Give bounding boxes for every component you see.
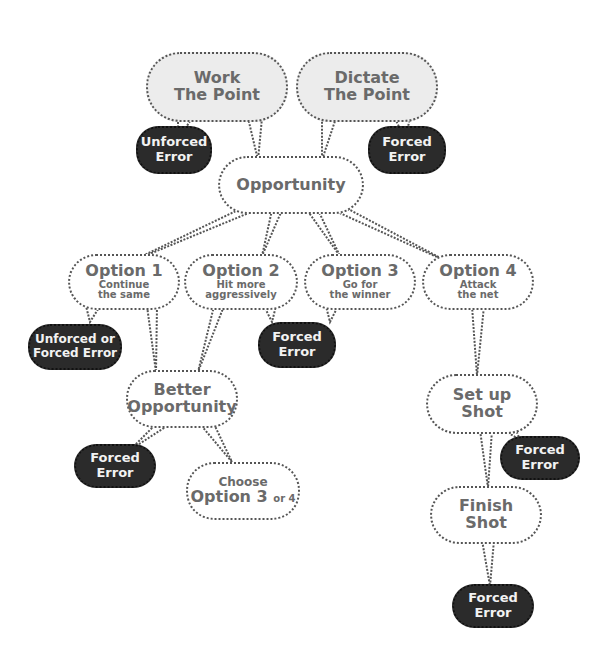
error-unforced-or-forced: Unforced or Forced Error	[28, 324, 122, 370]
option-title: Option 4	[439, 263, 516, 280]
connector-setup-to-finish	[480, 430, 492, 488]
error-label-line1: Forced	[90, 451, 140, 466]
error-unforced: Unforced Error	[136, 126, 212, 174]
option-title: Option 2	[202, 263, 279, 280]
connector-finish-to-error	[482, 540, 494, 586]
error-forced-dictate: Forced Error	[368, 126, 446, 174]
error-label-line2: Error	[96, 466, 133, 481]
error-label-line2: Error	[474, 606, 511, 621]
option-desc-line2: the winner	[330, 290, 391, 301]
node-label-line2: Shot	[461, 404, 503, 421]
node-dictate-the-point: Dictate The Point	[296, 52, 438, 122]
node-set-up-shot: Set up Shot	[426, 374, 538, 434]
node-option-1: Option 1 Continue the same	[68, 254, 180, 310]
connector-option1-to-better	[147, 306, 157, 372]
option-desc-line2: the same	[98, 290, 150, 301]
error-label-line1: Forced	[515, 443, 565, 458]
option-desc-line2: the net	[458, 290, 499, 301]
node-label-line2: Opportunity	[127, 399, 236, 416]
error-label-line2: Error	[278, 345, 315, 360]
connector-better-to-choose	[200, 424, 232, 462]
option-title: Option 3	[321, 263, 398, 280]
node-label-line2: The Point	[174, 87, 260, 104]
connector-work-to-opportunity	[248, 118, 262, 160]
node-option-3: Option 3 Go for the winner	[304, 254, 416, 310]
error-label-line1: Unforced	[141, 135, 208, 150]
error-label-line1: Forced	[468, 591, 518, 606]
error-forced-setup: Forced Error	[500, 436, 580, 480]
node-work-the-point: Work The Point	[146, 52, 288, 122]
error-forced-option: Forced Error	[258, 322, 336, 368]
connector-dictate-to-opportunity	[322, 118, 336, 160]
option-title: Option 1	[85, 263, 162, 280]
error-label-line1: Forced	[382, 135, 432, 150]
error-label-line2: Forced Error	[33, 347, 117, 361]
option-desc-line2: aggressively	[205, 290, 276, 301]
error-label-line1: Unforced or	[35, 333, 115, 347]
node-label: Opportunity	[236, 177, 345, 194]
choose-option-label: Option 3	[190, 487, 267, 506]
connector-option4-to-setup	[472, 306, 484, 376]
node-label-line2: The Point	[324, 87, 410, 104]
choose-or-label: or 4	[273, 493, 295, 504]
node-label-line2: Option 3 or 4	[190, 489, 295, 506]
error-label-line2: Error	[388, 150, 425, 165]
node-label-line2: Shot	[465, 515, 507, 532]
error-label-line2: Error	[521, 458, 558, 473]
error-label-line2: Error	[155, 150, 192, 165]
node-option-2: Option 2 Hit more aggressively	[184, 254, 298, 310]
error-label-line1: Forced	[272, 330, 322, 345]
connector-opportunity-to-option3	[307, 210, 340, 256]
connector-opportunity-to-option2	[262, 210, 282, 256]
node-better-opportunity: Better Opportunity	[126, 370, 238, 428]
error-forced-better: Forced Error	[74, 444, 156, 488]
node-option-4: Option 4 Attack the net	[422, 254, 534, 310]
node-finish-shot: Finish Shot	[430, 486, 542, 544]
connector-option2-to-better	[198, 306, 224, 372]
node-opportunity: Opportunity	[218, 156, 364, 214]
node-choose-option: Choose Option 3 or 4	[186, 462, 300, 520]
error-forced-finish: Forced Error	[452, 584, 534, 628]
